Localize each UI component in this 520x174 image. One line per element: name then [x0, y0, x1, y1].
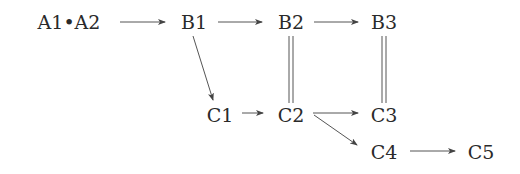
diagram-canvas: A1•A2 B1 B2 B3 C1 C2 C3 C4 C5 [0, 0, 520, 174]
arrow-c2-to-c4 [314, 115, 357, 145]
node-b2: B2 [278, 13, 304, 32]
node-b3: B3 [371, 13, 397, 32]
double-line-b3-c3 [382, 36, 386, 103]
node-c1: C1 [207, 106, 234, 125]
arrow-b1-to-c1 [193, 36, 213, 100]
node-c4: C4 [371, 143, 398, 162]
double-line-b2-c2 [289, 36, 293, 103]
node-c2: C2 [278, 106, 305, 125]
node-a1-a2: A1•A2 [38, 13, 101, 32]
node-c5: C5 [468, 143, 495, 162]
node-c3: C3 [371, 106, 398, 125]
node-b1: B1 [181, 13, 207, 32]
